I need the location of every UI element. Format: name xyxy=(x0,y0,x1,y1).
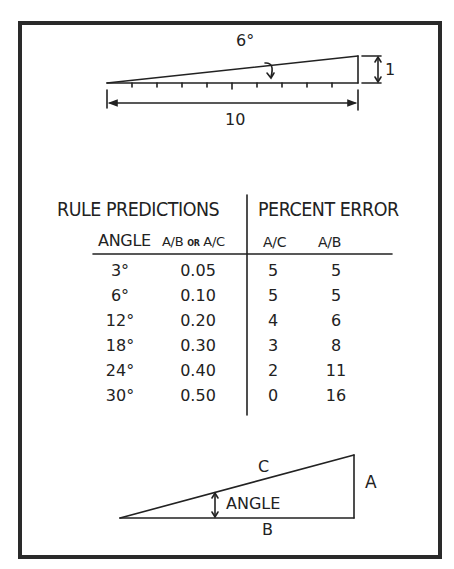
cell-err-ac: 3 xyxy=(243,338,303,354)
cell-ratio: 0.10 xyxy=(168,288,228,304)
cell-err-ac: 5 xyxy=(243,288,303,304)
subheader-or-text: OR xyxy=(187,239,199,248)
cell-angle: 12° xyxy=(90,313,150,329)
header-rule-predictions: RULE PREDICTIONS xyxy=(57,200,219,219)
top-length-label: 10 xyxy=(225,112,245,128)
line-art xyxy=(0,0,454,569)
cell-angle: 30° xyxy=(90,388,150,404)
cell-angle: 6° xyxy=(90,288,150,304)
subheader-angle: ANGLE xyxy=(98,233,151,249)
hypotenuse-label: C xyxy=(258,459,269,475)
angle-label: ANGLE xyxy=(226,496,280,512)
subheader-ab-text: A/B xyxy=(162,234,183,249)
opposite-label: A xyxy=(365,474,377,491)
cell-ratio: 0.05 xyxy=(168,263,228,279)
cell-err-ac: 0 xyxy=(243,388,303,404)
top-angle-label: 6° xyxy=(236,33,254,49)
cell-err-ab: 5 xyxy=(306,263,366,279)
cell-err-ab: 16 xyxy=(306,388,366,404)
subheader-error-ab: A/B xyxy=(318,235,341,249)
cell-err-ab: 8 xyxy=(306,338,366,354)
cell-err-ab: 5 xyxy=(306,288,366,304)
subheader-ac-text: A/C xyxy=(203,234,224,249)
cell-err-ab: 11 xyxy=(306,363,366,379)
cell-err-ac: 2 xyxy=(243,363,303,379)
top-height-label: 1 xyxy=(385,62,395,78)
cell-err-ac: 5 xyxy=(243,263,303,279)
cell-angle: 24° xyxy=(90,363,150,379)
cell-angle: 18° xyxy=(90,338,150,354)
header-percent-error: PERCENT ERROR xyxy=(258,200,399,219)
cell-ratio: 0.40 xyxy=(168,363,228,379)
cell-err-ac: 4 xyxy=(243,313,303,329)
cell-ratio: 0.50 xyxy=(168,388,228,404)
cell-err-ab: 6 xyxy=(306,313,366,329)
subheader-ratio-ab: A/B OR A/C xyxy=(162,235,225,248)
adjacent-label: B xyxy=(262,522,273,538)
top-wedge xyxy=(107,56,381,110)
cell-angle: 3° xyxy=(90,263,150,279)
cell-ratio: 0.20 xyxy=(168,313,228,329)
subheader-error-ac: A/C xyxy=(263,235,286,249)
cell-ratio: 0.30 xyxy=(168,338,228,354)
